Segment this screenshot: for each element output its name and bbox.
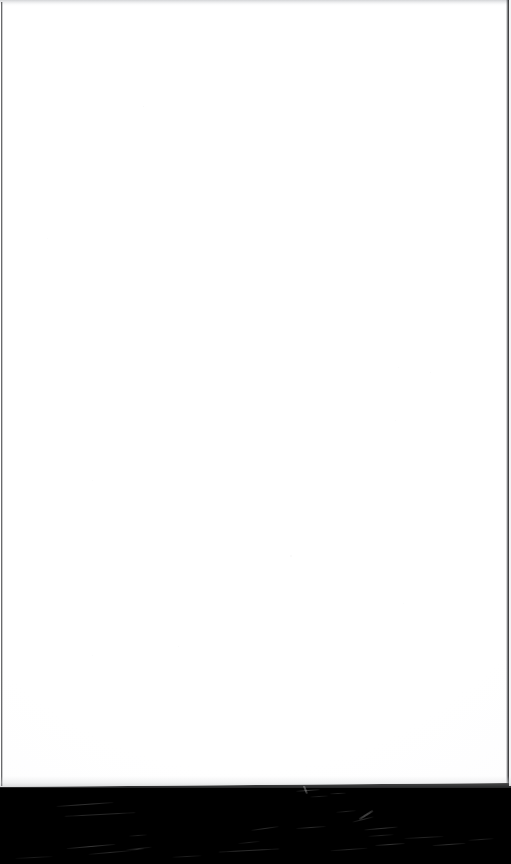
scan-scratch-artifact xyxy=(368,834,394,837)
scan-scratch-artifact xyxy=(129,834,147,836)
scanned-page-sheet xyxy=(0,0,511,787)
scan-artifact-layer xyxy=(0,786,511,864)
scan-edge-left-border xyxy=(1,2,3,786)
scan-scratch-artifact xyxy=(330,793,346,794)
page-dust-speck xyxy=(290,555,292,557)
scan-scratch-artifact xyxy=(15,856,53,859)
scan-top-shadow-band xyxy=(0,0,511,6)
scan-scratch-artifact xyxy=(56,802,114,807)
scan-scratch-artifact xyxy=(375,843,405,846)
scan-scratch-artifact xyxy=(296,826,326,829)
scan-scratch-artifact xyxy=(330,848,368,852)
scan-scratch-artifact xyxy=(66,844,116,849)
scan-scratch-artifact xyxy=(336,810,356,813)
scan-scratch-artifact xyxy=(88,850,132,855)
scan-scratch-artifact xyxy=(130,848,144,850)
scan-scratch-artifact xyxy=(238,841,260,844)
scan-scratch-artifact xyxy=(468,838,494,841)
scan-scratch-artifact xyxy=(251,826,279,831)
scan-scratch-artifact xyxy=(432,843,466,847)
page-paper-tone xyxy=(0,0,511,787)
scan-scratch-artifact xyxy=(364,827,398,831)
scan-scratch-artifact xyxy=(172,855,202,858)
scan-scratch-artifact xyxy=(64,812,136,817)
scan-scratch-artifact xyxy=(404,836,444,839)
scan-scratch-artifact xyxy=(296,789,320,792)
scan-scratch-artifact xyxy=(218,848,280,852)
scan-scratch-artifact xyxy=(310,796,328,798)
scan-viewport xyxy=(0,0,511,864)
